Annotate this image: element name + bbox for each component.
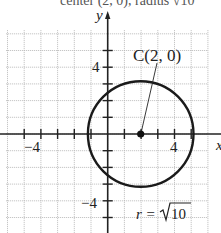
- y-tick-label-neg4: −4: [81, 195, 97, 211]
- center-label: C(2, 0): [133, 46, 181, 65]
- y-tick-label-4: 4: [92, 59, 100, 75]
- x-tick-label-4: 4: [170, 139, 178, 155]
- y-axis-label: y: [94, 7, 103, 23]
- radius-sqrt-arg: 10: [171, 206, 186, 222]
- axes: [0, 11, 221, 233]
- radius-label: r = 10: [136, 203, 191, 222]
- x-axis-label: x: [215, 137, 221, 153]
- center-point: [137, 130, 144, 137]
- y-axis-arrow-icon: [105, 11, 110, 19]
- top-caption: center (2, 0), radius √10: [60, 0, 194, 9]
- circle-graph-figure: center (2, 0), radius √10 y x −4 4 4 −4 …: [0, 0, 221, 233]
- center-leader-line: [142, 63, 158, 131]
- radius-label-prefix: r =: [136, 206, 156, 222]
- x-tick-label-neg4: −4: [24, 139, 40, 155]
